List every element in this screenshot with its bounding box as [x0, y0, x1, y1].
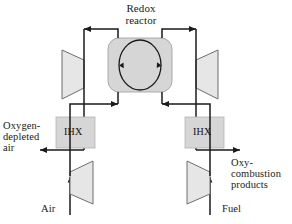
oxy-combustion-products-label: Oxy- combustion products: [231, 158, 281, 191]
diagram-title-line1: Redox: [106, 2, 176, 14]
turbine-left: [62, 50, 84, 99]
air-inlet-label: Air: [41, 204, 55, 215]
reactor-to-turbine-right-line: [162, 29, 196, 38]
redox-reactor-block: [108, 38, 172, 92]
turbine-right: [196, 50, 218, 99]
fuel-to-reactor-line: [162, 104, 210, 112]
oxy-combustion-products-line3: products: [231, 180, 281, 191]
compressor-right-body: [187, 161, 210, 204]
diagram-title-line2: reactor: [106, 14, 176, 26]
right-cold-stream-piping: [162, 92, 210, 215]
left-cold-stream-piping: [70, 92, 118, 215]
oxygen-depleted-air-line3: air: [3, 143, 40, 154]
compressor-left-body: [70, 161, 93, 204]
ihx-left-label: IHX: [64, 126, 82, 137]
ihx-right-label: IHX: [193, 126, 211, 137]
oxygen-depleted-air-label: Oxygen- depleted air: [3, 121, 40, 154]
air-to-reactor-line: [70, 104, 118, 112]
reactor-to-turbine-left-line: [84, 29, 118, 38]
fuel-inlet-label: Fuel: [222, 204, 241, 215]
turbine-left-body: [62, 50, 84, 99]
turbine-right-body: [196, 50, 218, 99]
reactor-body: [108, 38, 172, 92]
process-flow-diagram: Redox reactor IHX IHX Oxygen- depleted a…: [0, 0, 292, 224]
diagram-title: Redox reactor: [106, 2, 176, 27]
